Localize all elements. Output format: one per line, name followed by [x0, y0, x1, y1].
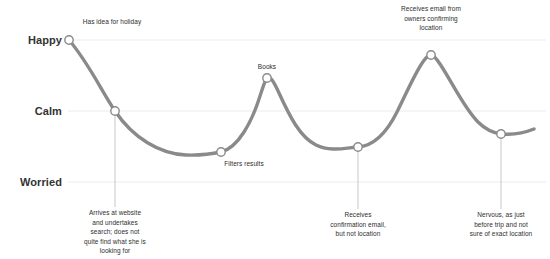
annotation-filters-results: Filters results [224, 159, 263, 169]
annotation-nervous-line-2: before trip and not [470, 220, 533, 230]
annotation-arrives-line-5: looking for [84, 246, 146, 256]
axis-label-worried: Worried [20, 176, 62, 188]
journey-plot-svg [0, 0, 550, 259]
annotation-confirmation-email: Receives confirmation email, but not loc… [330, 210, 386, 239]
annotation-owners-line-2: owners confirming [401, 14, 461, 24]
annotation-arrives-at-website: Arrives at website and undertakes search… [84, 208, 146, 256]
annotation-confirmation-line-3: but not location [330, 229, 386, 239]
annotation-confirmation-line-2: confirmation email, [330, 220, 386, 230]
marker-filters-results[interactable] [217, 148, 225, 156]
marker-owners-email[interactable] [427, 51, 435, 59]
annotation-arrives-line-3: search; does not [84, 227, 146, 237]
annotation-owners-email: Receives email from owners confirming lo… [401, 4, 461, 33]
gridlines [68, 40, 546, 182]
annotation-confirmation-line-1: Receives [330, 210, 386, 220]
data-point-markers [65, 36, 505, 156]
axis-label-happy: Happy [28, 34, 62, 46]
annotation-arrives-line-1: Arrives at website [84, 208, 146, 218]
leader-lines [115, 113, 501, 209]
marker-books[interactable] [263, 74, 271, 82]
marker-has-idea[interactable] [65, 36, 73, 44]
annotation-owners-line-3: location [401, 23, 461, 33]
annotation-owners-line-1: Receives email from [401, 4, 461, 14]
annotation-has-idea: Has idea for holiday [83, 17, 141, 27]
marker-confirmation-email[interactable] [354, 143, 362, 151]
annotation-nervous: Nervous, as just before trip and not sur… [470, 210, 533, 239]
annotation-arrives-line-2: and undertakes [84, 218, 146, 228]
annotation-nervous-line-1: Nervous, as just [470, 210, 533, 220]
marker-arrives-at-website[interactable] [111, 107, 119, 115]
marker-nervous[interactable] [497, 130, 505, 138]
annotation-arrives-line-4: quite find what she is [84, 237, 146, 247]
emotion-curve [69, 40, 534, 155]
emotional-journey-chart: Happy Calm Worried Has idea for holiday … [0, 0, 550, 259]
annotation-books: Books [258, 62, 276, 72]
annotation-nervous-line-3: sure of exact location [470, 229, 533, 239]
axis-label-calm: Calm [35, 105, 62, 117]
